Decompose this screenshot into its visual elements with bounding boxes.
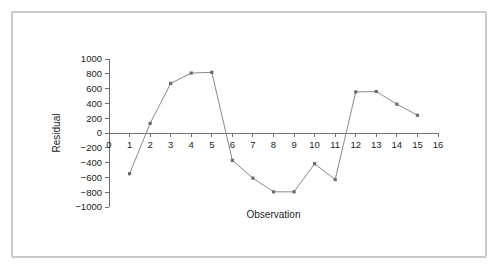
y-tick-label--400: −400 bbox=[81, 157, 102, 168]
x-axis-title: Observation bbox=[247, 209, 301, 220]
data-point-8 bbox=[272, 190, 275, 193]
x-tick-label-7: 7 bbox=[250, 139, 255, 150]
x-tick-label-8: 8 bbox=[271, 139, 276, 150]
x-tick-label-2: 2 bbox=[147, 139, 152, 150]
x-tick-label-10: 10 bbox=[309, 139, 320, 150]
data-point-14 bbox=[395, 103, 398, 106]
y-tick-label-800: 800 bbox=[86, 68, 102, 79]
data-point-10 bbox=[313, 162, 316, 165]
y-tick-label-200: 200 bbox=[86, 113, 102, 124]
x-tick-label-6: 6 bbox=[230, 139, 235, 150]
artifact-glyphs: ▪ ▪ bbox=[330, 0, 341, 3]
data-point-2 bbox=[149, 122, 152, 125]
y-tick-label-400: 400 bbox=[86, 98, 102, 109]
x-tick-label-15: 15 bbox=[412, 139, 423, 150]
data-point-15 bbox=[416, 114, 419, 117]
page-edge-artifact: ▪ ▪ bbox=[330, 0, 499, 5]
data-point-4 bbox=[190, 71, 193, 74]
x-tick-label-13: 13 bbox=[371, 139, 382, 150]
y-axis-title: Residual bbox=[51, 114, 62, 153]
chart-canvas: −1000−800−600−400−2000200400600800100001… bbox=[13, 13, 489, 260]
x-tick-label-3: 3 bbox=[168, 139, 173, 150]
x-tick-label-5: 5 bbox=[209, 139, 214, 150]
series-line-residual bbox=[130, 72, 418, 192]
x-tick-label-14: 14 bbox=[392, 139, 403, 150]
data-point-9 bbox=[292, 190, 295, 193]
y-tick-label-600: 600 bbox=[86, 83, 102, 94]
x-tick-label-4: 4 bbox=[189, 139, 194, 150]
data-point-3 bbox=[169, 82, 172, 85]
x-tick-label-12: 12 bbox=[350, 139, 361, 150]
x-tick-label-9: 9 bbox=[291, 139, 296, 150]
y-tick-label-1000: 1000 bbox=[81, 53, 102, 64]
y-tick-label-0: 0 bbox=[97, 127, 102, 138]
x-tick-label-11: 11 bbox=[330, 139, 340, 150]
data-point-11 bbox=[334, 178, 337, 181]
y-tick-label--600: −600 bbox=[81, 172, 102, 183]
data-point-1 bbox=[128, 172, 131, 175]
figure-frame: −1000−800−600−400−2000200400600800100001… bbox=[11, 11, 487, 258]
y-tick-label--1000: −1000 bbox=[75, 201, 102, 212]
x-tick-label-1: 1 bbox=[127, 139, 132, 150]
y-tick-label--800: −800 bbox=[81, 187, 102, 198]
x-tick-label-0: 0 bbox=[106, 139, 111, 150]
data-point-7 bbox=[251, 177, 254, 180]
residual-plot: −1000−800−600−400−2000200400600800100001… bbox=[13, 13, 489, 260]
data-point-5 bbox=[210, 71, 213, 74]
data-point-13 bbox=[375, 90, 378, 93]
y-tick-label--200: −200 bbox=[81, 142, 102, 153]
data-point-6 bbox=[231, 159, 234, 162]
data-point-12 bbox=[354, 90, 357, 93]
x-tick-label-16: 16 bbox=[433, 139, 444, 150]
